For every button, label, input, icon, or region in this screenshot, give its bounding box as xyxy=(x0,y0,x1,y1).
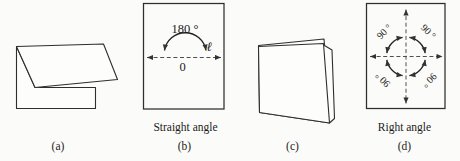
angle-90-label-top-left: 90 ° xyxy=(374,22,393,41)
paper-front-flap xyxy=(17,44,118,88)
panel-c-folded-paper-twice xyxy=(259,39,335,123)
panel-a-folded-paper-once xyxy=(17,44,118,109)
paper-front-layer xyxy=(259,44,330,124)
panel-d-right-angle: 90 ° 90 ° 90 ° 90 ° xyxy=(367,4,446,109)
angle-folding-figure: 180 ° 0 ℓ 90 ° 90 ° 90 ° 90 ° Straight a… xyxy=(0,0,460,161)
caption-a: (a) xyxy=(52,140,65,153)
angle-180-label: 180 ° xyxy=(172,22,199,36)
caption-c: (c) xyxy=(286,140,299,153)
caption-d: (d) xyxy=(398,140,412,153)
panel-b-title: Straight angle xyxy=(153,121,217,134)
vertex-zero-label: 0 xyxy=(179,60,185,74)
right-angle-arc-nw xyxy=(387,37,403,53)
right-angle-arc-ne xyxy=(409,37,425,53)
caption-b: (b) xyxy=(178,140,192,153)
paper-outline-b xyxy=(144,4,225,110)
line-l-label: ℓ xyxy=(207,39,213,54)
panel-b-straight-angle: 180 ° 0 ℓ xyxy=(144,4,225,110)
right-angle-arc-se xyxy=(409,60,425,76)
panel-d-title: Right angle xyxy=(378,121,431,134)
figure-captions: Straight angle Right angle (a) (b) (c) (… xyxy=(52,121,432,153)
right-angle-arc-sw xyxy=(387,60,403,76)
angle-90-label-bottom-right: 90 ° xyxy=(420,71,439,90)
angle-90-label-top-right: 90 ° xyxy=(419,22,438,41)
figure-svg: 180 ° 0 ℓ 90 ° 90 ° 90 ° 90 ° Straight a… xyxy=(0,0,460,161)
angle-90-label-bottom-left: 90 ° xyxy=(373,70,392,89)
